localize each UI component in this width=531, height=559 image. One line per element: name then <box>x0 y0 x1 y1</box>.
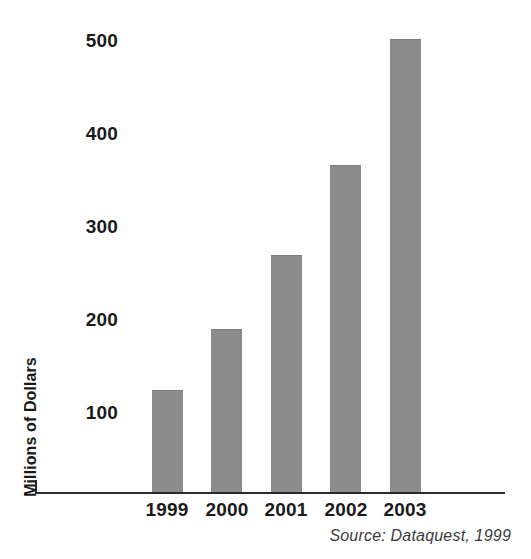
bar-2000 <box>211 329 242 492</box>
x-axis-line <box>35 492 505 494</box>
bar-1999 <box>152 390 183 492</box>
plot-area: 500 400 300 200 100 1999 2000 2001 2002 … <box>0 0 531 559</box>
x-tick-label-2003: 2003 <box>365 500 445 521</box>
bar-2003 <box>390 39 421 492</box>
bar-2001 <box>271 255 302 492</box>
bar-series <box>0 0 531 559</box>
bar-chart-figure: 500 400 300 200 100 1999 2000 2001 2002 … <box>0 0 531 559</box>
source-note: Source: Dataquest, 1999 <box>329 527 511 545</box>
bar-2002 <box>330 165 361 492</box>
y-axis-title: Millions of Dollars <box>22 352 40 502</box>
